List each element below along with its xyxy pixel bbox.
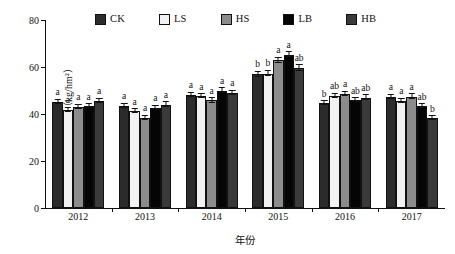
bar[interactable] (263, 74, 273, 208)
error-cap-bottom (331, 97, 337, 98)
bar[interactable] (361, 98, 371, 208)
significance-label: a (210, 87, 214, 97)
error-cap-top (254, 71, 260, 72)
error-cap-top (408, 93, 414, 94)
bar[interactable] (252, 74, 262, 208)
bar[interactable] (273, 60, 283, 208)
bar-slot[interactable]: a (396, 20, 406, 208)
bar[interactable] (84, 106, 94, 208)
bar-slot[interactable]: a (340, 20, 350, 208)
bar-slot[interactable]: ab (361, 20, 371, 208)
bar-slot[interactable]: ab (294, 20, 304, 208)
bar[interactable] (52, 102, 62, 208)
bar-slot[interactable]: a (73, 20, 83, 208)
bar-slot[interactable]: ab (329, 20, 339, 208)
significance-label: a (199, 83, 203, 93)
bar[interactable] (119, 106, 129, 208)
error-cap-bottom (398, 102, 404, 103)
significance-label: b (255, 60, 260, 70)
bar[interactable] (161, 105, 171, 208)
bar-slot[interactable]: a (217, 20, 227, 208)
bar[interactable] (329, 96, 339, 208)
significance-label: a (122, 92, 126, 102)
bar-slot[interactable]: a (206, 20, 216, 208)
error-cap-bottom (163, 106, 169, 107)
error-cap-top (163, 101, 169, 102)
bar-slot[interactable]: a (386, 20, 396, 208)
bar[interactable] (417, 106, 427, 208)
bar-slot[interactable]: b (427, 20, 437, 208)
error-cap-top (388, 94, 394, 95)
error-cap-top (198, 93, 204, 94)
bar-slot[interactable]: a (161, 20, 171, 208)
bar[interactable] (217, 91, 227, 209)
significance-label: a (399, 87, 403, 97)
bar-slot[interactable]: a (196, 20, 206, 208)
x-tick-label: 2012 (52, 211, 104, 222)
bar[interactable] (427, 118, 437, 208)
significance-label: a (343, 80, 347, 90)
bar[interactable] (284, 55, 294, 208)
error-cap-bottom (54, 103, 60, 104)
significance-label: b (266, 59, 271, 69)
error-cap-top (75, 104, 81, 105)
error-cap-top (398, 98, 404, 99)
error-cap-bottom (352, 101, 358, 102)
error-cap-bottom (85, 107, 91, 108)
error-cap-top (208, 97, 214, 98)
bar[interactable] (73, 107, 83, 208)
bar-slot[interactable]: ab (350, 20, 360, 208)
bar-slot[interactable]: b (252, 20, 262, 208)
bar[interactable] (319, 103, 329, 208)
bar-slot[interactable]: a (140, 20, 150, 208)
y-tick-label: 0 (34, 203, 39, 214)
bar-slot[interactable]: a (273, 20, 283, 208)
bar-slot[interactable]: a (227, 20, 237, 208)
error-cap-bottom (229, 94, 235, 95)
bar[interactable] (350, 100, 360, 208)
bar[interactable] (386, 97, 396, 208)
x-tick-label: 2014 (186, 211, 238, 222)
error-cap-bottom (408, 98, 414, 99)
x-tick-mark (178, 208, 179, 212)
bar[interactable] (406, 97, 416, 208)
bar[interactable] (227, 93, 237, 208)
significance-label: a (410, 83, 414, 93)
bar[interactable] (140, 118, 150, 208)
bar[interactable] (129, 111, 139, 208)
bar-slot[interactable]: a (84, 20, 94, 208)
y-tick-mark (41, 114, 45, 115)
error-cap-top (352, 97, 358, 98)
x-tick-label: 2015 (252, 211, 304, 222)
bar-slot[interactable]: a (284, 20, 294, 208)
bar-slot[interactable]: a (52, 20, 62, 208)
bar-slot[interactable]: a (129, 20, 139, 208)
x-tick-mark (312, 208, 313, 212)
bar-slot[interactable]: b (263, 20, 273, 208)
bar-slot[interactable]: a (186, 20, 196, 208)
bar[interactable] (186, 95, 196, 208)
bar-slot[interactable]: a (406, 20, 416, 208)
bar-slot[interactable]: a (63, 20, 73, 208)
bar[interactable] (94, 101, 104, 208)
bar[interactable] (150, 108, 160, 208)
bar[interactable] (294, 68, 304, 208)
bar-group: aaaaa2012 (52, 20, 104, 208)
bar-slot[interactable]: ab (417, 20, 427, 208)
bar-group: bbaaab2015 (252, 20, 304, 208)
error-cap-top (342, 91, 348, 92)
bar-slot[interactable]: a (119, 20, 129, 208)
error-cap-bottom (121, 107, 127, 108)
bar[interactable] (196, 96, 206, 208)
bar-group: babaabab2016 (319, 20, 371, 208)
bar[interactable] (340, 94, 350, 208)
error-cap-bottom (363, 99, 369, 100)
error-cap-bottom (419, 107, 425, 108)
bar[interactable] (396, 101, 406, 208)
bar[interactable] (206, 100, 216, 208)
bar-slot[interactable]: a (150, 20, 160, 208)
bar[interactable] (63, 110, 73, 208)
bar-slot[interactable]: b (319, 20, 329, 208)
error-cap-top (265, 70, 271, 71)
bar-slot[interactable]: a (94, 20, 104, 208)
